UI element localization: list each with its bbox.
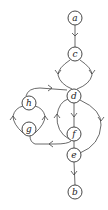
node-label: e [71, 150, 76, 160]
edge-h-d [26, 88, 67, 96]
node-b: b [68, 185, 82, 199]
node-label: c [72, 49, 77, 59]
edge-c-d-right [77, 60, 92, 89]
node-label: a [72, 13, 77, 23]
arrowhead-down-icon [98, 117, 104, 121]
arrowhead-down-icon [89, 70, 95, 74]
graph-diagram: a c d h g f e b [0, 0, 108, 210]
node-label: b [72, 187, 78, 197]
edge-g-h-left [13, 106, 23, 133]
node-h: h [22, 96, 36, 110]
arrowhead-down-icon [55, 70, 61, 74]
arrowhead-down-icon [71, 171, 77, 175]
edge-c-d-left [58, 60, 72, 89]
node-label: g [26, 124, 32, 134]
node-f: f [67, 127, 81, 141]
node-label: h [26, 98, 32, 108]
node-d: d [67, 89, 81, 103]
node-g: g [22, 122, 36, 136]
node-c: c [68, 47, 82, 61]
edge-g-h-right [35, 106, 45, 133]
arrowhead-right-icon [48, 85, 52, 91]
node-label: d [71, 91, 77, 101]
node-e: e [67, 148, 81, 162]
node-a: a [68, 11, 82, 25]
edge-d-e-arc [80, 100, 101, 153]
